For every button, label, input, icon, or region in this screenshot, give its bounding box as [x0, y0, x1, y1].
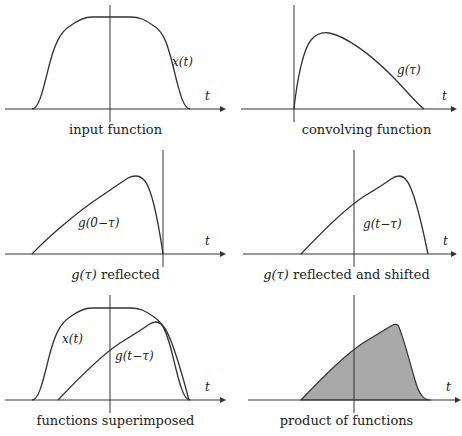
axis-arrow-icon	[455, 397, 461, 403]
axis-label: t	[205, 234, 210, 248]
axis-label: t	[446, 380, 451, 394]
panel-input-function: x(t) t input function	[0, 0, 231, 145]
axis-label: t	[443, 234, 448, 248]
caption-text: reflected and shifted	[293, 267, 430, 282]
caption: convolving function	[251, 122, 462, 137]
panel-product: t product of functions	[231, 290, 462, 435]
g-t-minus-tau-curve	[301, 176, 428, 254]
caption: input function	[0, 122, 231, 137]
panel-reflected: g(0−τ) t g(τ) reflected	[0, 145, 231, 290]
product-area	[301, 324, 431, 400]
caption: functions superimposed	[0, 413, 231, 428]
caption-text: reflected	[101, 267, 160, 282]
caption-math: g(τ)	[263, 267, 289, 282]
curve-label: g(t−τ)	[363, 217, 402, 231]
axis-arrow-icon	[220, 397, 226, 403]
curve-label-g: g(t−τ)	[115, 349, 154, 363]
panel-superimposed: x(t) g(t−τ) t functions superimposed	[0, 290, 231, 435]
axis-arrow-icon	[451, 251, 457, 257]
caption: g(τ) reflected	[0, 267, 231, 282]
curve-label-x: x(t)	[62, 332, 83, 346]
curve-label: x(t)	[172, 55, 193, 69]
x-t-curve	[32, 17, 190, 109]
panel-convolving-function: g(τ) t convolving function	[231, 0, 462, 145]
caption-math: g(τ)	[71, 267, 97, 282]
caption: product of functions	[231, 413, 462, 428]
axis-arrow-icon	[220, 106, 226, 112]
x-t-curve	[32, 308, 190, 400]
axis-label: t	[205, 380, 210, 394]
curve-label: g(0−τ)	[78, 216, 120, 230]
curve-label: g(τ)	[397, 63, 421, 77]
axis-arrow-icon	[451, 106, 457, 112]
axis-label: t	[442, 89, 447, 103]
panel-reflected-shifted: g(t−τ) t g(τ) reflected and shifted	[231, 145, 462, 290]
caption: g(τ) reflected and shifted	[231, 267, 462, 282]
g-0-minus-tau-curve	[32, 176, 163, 254]
axis-arrow-icon	[220, 251, 226, 257]
axis-label: t	[205, 89, 210, 103]
